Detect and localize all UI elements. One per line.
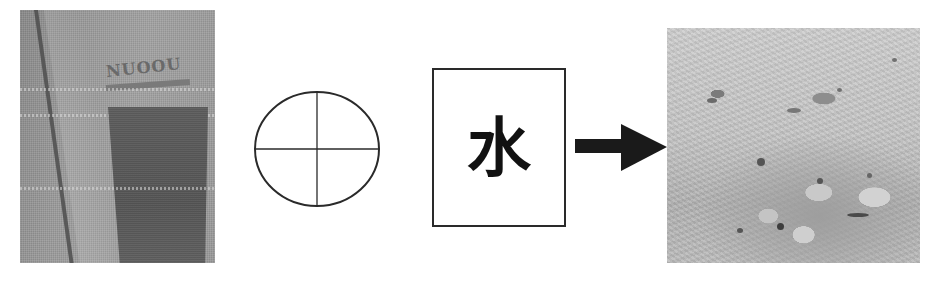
stabilized-soil-photo: [667, 28, 920, 263]
bag-dark-panel: [108, 107, 208, 263]
bag-stitch-line: [20, 187, 215, 190]
soil-clod: [707, 98, 717, 103]
soil-clod: [787, 108, 801, 113]
water-box: 水: [432, 68, 566, 227]
bag-brand-label: NUOOU: [105, 54, 182, 81]
soil-clod: [867, 173, 872, 178]
soil-clod: [737, 228, 743, 233]
soil-clod: [757, 158, 765, 166]
soil-clod: [777, 223, 784, 230]
soil-crack: [847, 213, 869, 217]
water-character: 水: [467, 116, 531, 180]
cement-bag-photo: NUOOU: [20, 10, 215, 263]
right-arrow-icon: [575, 124, 667, 171]
soil-clod: [817, 178, 823, 184]
mixing-circle-crosshair-icon: [253, 90, 381, 208]
soil-clod: [837, 88, 842, 92]
soil-clod: [892, 58, 897, 62]
bag-stitch-line: [20, 88, 215, 91]
